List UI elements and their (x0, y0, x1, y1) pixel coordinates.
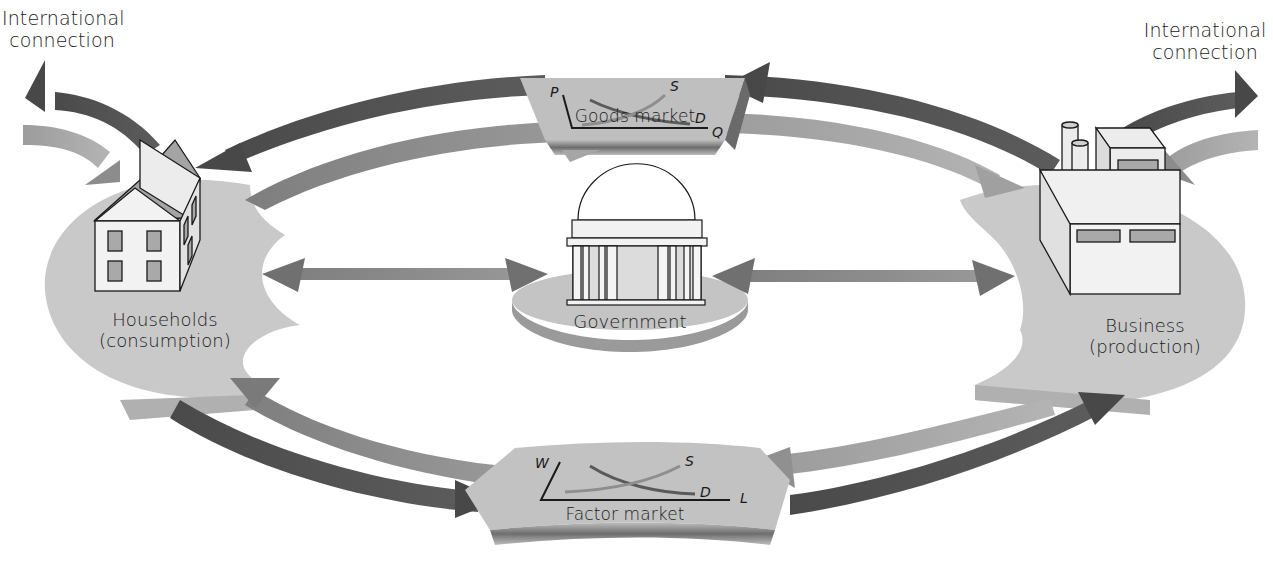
label-line: International (2, 8, 122, 30)
factory-icon (1040, 122, 1180, 294)
label-line: connection (1140, 42, 1270, 64)
label-line: (production) (1075, 337, 1215, 358)
goods-demand-label: D (695, 110, 706, 126)
factor-supply-label: S (685, 453, 694, 469)
international-to-households-arrow (23, 125, 120, 185)
government-households-arrow (262, 258, 548, 292)
factor-to-households-arrow (230, 378, 495, 485)
goods-quantity-axis-label: Q (712, 124, 723, 140)
factor-labor-axis-label: L (740, 490, 748, 506)
house-icon (95, 140, 200, 291)
households-label: Households (consumption) (95, 310, 235, 351)
factor-demand-label: D (700, 484, 711, 500)
international-connection-right-label: International connection (1140, 20, 1270, 64)
goods-market-label: Goods market (560, 107, 710, 127)
factor-wage-axis-label: W (535, 455, 549, 471)
label-line: (consumption) (95, 331, 235, 352)
label-line: International (1140, 20, 1270, 42)
capitol-building-icon (567, 164, 707, 305)
business-label: Business (production) (1075, 316, 1215, 357)
government-business-arrow (712, 258, 1015, 296)
factor-market-label: Factor market (545, 505, 705, 525)
label-line: connection (2, 30, 122, 52)
government-label: Government (560, 312, 700, 333)
label-line: Business (1075, 316, 1215, 337)
circular-flow-diagram: International connection International c… (0, 0, 1273, 561)
label-line: Households (95, 310, 235, 331)
goods-price-axis-label: P (550, 84, 558, 100)
international-connection-left-label: International connection (2, 8, 122, 52)
goods-supply-label: S (670, 78, 679, 94)
